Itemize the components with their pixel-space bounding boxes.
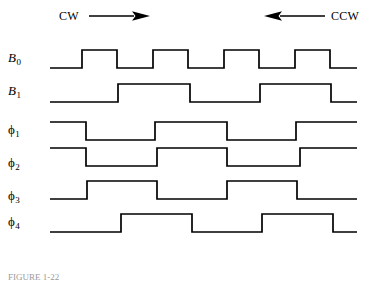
waveform-phi1 [50,122,357,140]
figure-caption: FIGURE 1-22 [8,272,158,282]
waveform-plot [0,0,381,287]
waveform-phi3 [50,181,357,199]
waveform-b1 [50,84,357,102]
waveform-b0 [50,50,357,68]
figure-canvas: CW CCW B0 B1 ϕ1 ϕ2 ϕ3 ϕ4 FIGURE 1-22 [0,0,381,287]
waveform-phi4 [50,214,357,232]
waveform-phi2 [50,148,357,166]
